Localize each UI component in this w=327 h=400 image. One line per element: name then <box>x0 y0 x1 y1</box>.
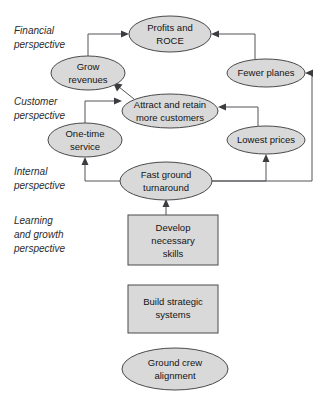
connector-one-time-service-to-attract-customers <box>85 101 115 123</box>
arrowhead-fast-ground-turnaround-to-lowest-prices <box>263 154 270 162</box>
node-label-profits-and-roce-line2: ROCE <box>156 35 183 46</box>
connector-fewer-planes-to-profits <box>218 34 255 59</box>
perspective-label-learning: Learning and growth perspective <box>13 215 66 254</box>
arrowhead-one-time-service-to-attract-customers <box>114 98 122 105</box>
node-fewer-planes[interactable]: Fewer planes <box>227 59 305 87</box>
node-build-strategic-systems[interactable]: Build strategic systems <box>128 285 218 333</box>
strategy-map-diagram: Financial perspective Customer perspecti… <box>0 0 327 400</box>
node-label-build-strategic-systems-line2: systems <box>156 309 191 320</box>
node-one-time-service[interactable]: One-time service <box>48 123 122 157</box>
connector-fast-ground-turnaround-to-lowest-prices <box>212 161 266 181</box>
node-label-fast-ground-turnaround-line1: Fast ground <box>141 169 192 180</box>
strategy-map-canvas: Financial perspective Customer perspecti… <box>0 0 327 400</box>
perspective-label-customer: Customer perspective <box>13 96 66 121</box>
arrowhead-fewer-planes-to-profits <box>211 31 219 38</box>
connector-grow-revenues-to-profits <box>88 34 122 56</box>
perspective-label-customer-line2: perspective <box>13 110 66 121</box>
perspective-label-learning-line1: Learning <box>14 215 53 226</box>
node-grow-revenues[interactable]: Grow revenues <box>51 56 125 90</box>
perspective-label-internal-line2: perspective <box>13 180 66 191</box>
connector-lowest-prices-to-attract-customers <box>225 107 258 126</box>
node-label-develop-necessary-skills-line3: skills <box>163 248 184 259</box>
node-label-profits-and-roce-line1: Profits and <box>147 22 192 33</box>
perspective-label-financial-line2: perspective <box>13 39 66 50</box>
node-label-attract-and-retain-more-customers-line1: Attract and retain <box>134 99 206 110</box>
node-attract-and-retain-more-customers[interactable]: Attract and retain more customers <box>122 94 218 128</box>
perspective-label-customer-line1: Customer <box>14 96 58 107</box>
node-label-fewer-planes-line1: Fewer planes <box>237 67 294 78</box>
node-label-develop-necessary-skills-line1: Develop <box>156 222 191 233</box>
node-label-ground-crew-alignment-line1: Ground crew <box>148 357 203 368</box>
node-lowest-prices[interactable]: Lowest prices <box>227 126 305 154</box>
node-label-one-time-service-line2: service <box>70 141 100 152</box>
node-label-build-strategic-systems-line1: Build strategic <box>143 296 203 307</box>
node-ground-crew-alignment[interactable]: Ground crew alignment <box>122 348 228 390</box>
node-label-one-time-service-line1: One-time <box>65 128 104 139</box>
node-label-attract-and-retain-more-customers-line2: more customers <box>136 112 204 123</box>
connector-attract-customers-to-grow-revenues <box>119 87 134 99</box>
node-label-fast-ground-turnaround-line2: turnaround <box>143 182 189 193</box>
perspective-label-internal-line1: Internal <box>14 166 48 177</box>
arrowhead-fast-ground-turnaround-to-fewer-planes <box>305 70 313 77</box>
perspective-label-financial: Financial perspective <box>13 25 66 50</box>
node-layer: Profits and ROCE Grow revenues Fewer pla… <box>48 16 305 390</box>
perspective-label-learning-line2: and growth <box>14 229 64 240</box>
connector-fast-ground-turnaround-to-one-time-service <box>85 164 120 181</box>
perspective-label-financial-line1: Financial <box>14 25 55 36</box>
arrowhead-grow-revenues-to-profits <box>121 31 129 38</box>
node-develop-necessary-skills[interactable]: Develop necessary skills <box>128 215 218 265</box>
arrowhead-fast-ground-turnaround-to-one-time-service <box>82 157 89 165</box>
arrowhead-lowest-prices-to-attract-customers <box>218 104 226 111</box>
node-label-lowest-prices-line1: Lowest prices <box>237 134 295 145</box>
node-label-grow-revenues-line1: Grow <box>77 61 100 72</box>
perspective-label-internal: Internal perspective <box>13 166 66 191</box>
node-label-grow-revenues-line2: revenues <box>68 74 107 85</box>
perspective-label-learning-line3: perspective <box>13 243 66 254</box>
node-profits-and-roce[interactable]: Profits and ROCE <box>129 16 211 52</box>
node-label-develop-necessary-skills-line2: necessary <box>151 235 195 246</box>
node-fast-ground-turnaround[interactable]: Fast ground turnaround <box>120 162 212 200</box>
node-label-ground-crew-alignment-line2: alignment <box>154 370 196 381</box>
